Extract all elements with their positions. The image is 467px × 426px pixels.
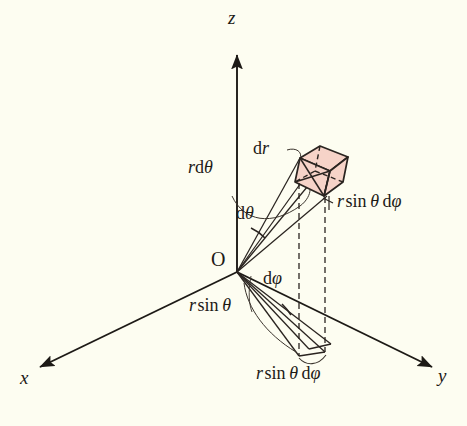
- axis-label-x: x: [20, 368, 28, 387]
- origin-label: O: [211, 249, 225, 269]
- axis-label-z: z: [228, 8, 235, 27]
- label-dtheta: dθ: [236, 204, 254, 222]
- label-rstdp-bottom-theta: θ: [289, 363, 298, 383]
- label-rstdp-right-d: d: [383, 191, 392, 211]
- label-r-dtheta-d: d: [195, 157, 204, 177]
- label-dtheta-theta: θ: [245, 203, 254, 223]
- label-dphi: dφ: [263, 269, 282, 287]
- spherical-coordinates-figure: z x y O dr rdθ dθ dφ r sin θ r sin θ dφ …: [0, 0, 467, 426]
- label-dr-d: d: [253, 138, 262, 158]
- label-rstdp-bottom-r: r: [256, 363, 263, 383]
- label-dphi-phi: φ: [272, 268, 282, 288]
- label-r-dtheta-theta: θ: [204, 157, 213, 177]
- label-r-dtheta-r: r: [188, 157, 195, 177]
- label-r-sin-theta-r: r: [189, 295, 196, 315]
- label-r-sin-theta-dphi-bottom: r sin θ dφ: [256, 364, 321, 382]
- label-rstdp-right-sin: sin: [346, 191, 367, 211]
- axis-label-y: y: [438, 366, 446, 385]
- label-dr: dr: [253, 139, 269, 157]
- label-dr-r: r: [262, 138, 269, 158]
- label-r-sin-theta: r sin θ: [189, 296, 231, 314]
- figure-background: [0, 0, 467, 426]
- label-r-sin-theta-sin: sin: [198, 295, 219, 315]
- label-rstdp-right-theta: θ: [370, 191, 379, 211]
- label-rstdp-bottom-phi: φ: [311, 363, 321, 383]
- spherical-coordinates-diagram: [0, 0, 467, 426]
- label-rstdp-right-phi: φ: [392, 191, 402, 211]
- label-r-dtheta: rdθ: [188, 158, 213, 176]
- label-rstdp-bottom-sin: sin: [265, 363, 286, 383]
- label-dtheta-d: d: [236, 203, 245, 223]
- label-r-sin-theta-theta: θ: [222, 295, 231, 315]
- label-dphi-d: d: [263, 268, 272, 288]
- label-rstdp-bottom-d: d: [302, 363, 311, 383]
- label-rstdp-right-r: r: [337, 191, 344, 211]
- label-r-sin-theta-dphi-right: r sin θ dφ: [337, 192, 402, 210]
